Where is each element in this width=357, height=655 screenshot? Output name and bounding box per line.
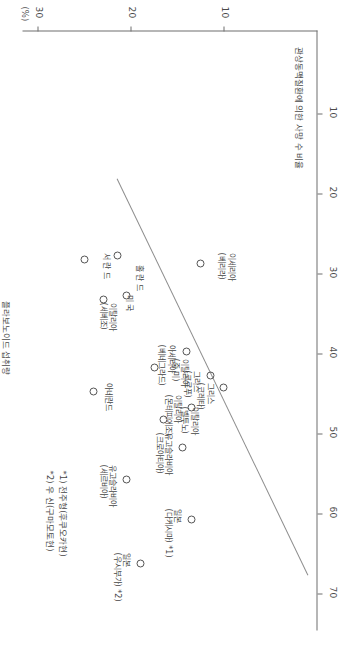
data-point-label: 이탈리아 (벨투노) — [179, 406, 198, 434]
data-point — [113, 251, 121, 259]
data-point — [159, 415, 167, 423]
unit-label: (%) — [19, 6, 29, 21]
y-tick-20 — [130, 26, 131, 31]
data-point — [89, 387, 97, 395]
x-tick-50 — [317, 433, 322, 434]
x-axis-title: 플라보노이드 섭취량 — [0, 300, 12, 375]
data-point-label: 유고슬라비아 (크로아티아) — [153, 432, 172, 474]
data-point-label: 홀 란 드 — [134, 264, 144, 290]
data-point — [220, 383, 228, 391]
x-ticklabel-60: 60 — [327, 506, 337, 518]
data-point-label: 아네란드 — [102, 382, 112, 410]
y-axis-line — [22, 30, 317, 31]
chart-figure: 10 20 30 40 50 60 70 10 20 30 (%) 플라보노이드… — [0, 0, 357, 655]
data-point-label: 이탈리아 (세베조) — [97, 302, 116, 330]
data-point — [150, 363, 158, 371]
data-point-label: 그리스 (크레타) — [195, 382, 214, 409]
data-point — [136, 559, 144, 567]
data-point-label: 일본 (다케시마) *1) — [162, 508, 181, 557]
x-tick-40 — [317, 353, 322, 354]
y-ticklabel-30: 30 — [33, 6, 43, 18]
y-axis-title: 관상동맥질환에 의한 사망 수 비율 — [293, 46, 305, 169]
data-point — [122, 475, 130, 483]
x-axis-line — [316, 30, 317, 630]
data-point — [196, 259, 204, 267]
x-tick-20 — [317, 193, 322, 194]
y-tick-30 — [37, 26, 38, 31]
x-ticklabel-10: 10 — [327, 106, 337, 118]
x-ticklabel-30: 30 — [327, 266, 337, 278]
x-ticklabel-70: 70 — [327, 586, 337, 598]
data-point — [182, 347, 190, 355]
plot-area: 10 20 30 40 50 60 70 10 20 30 (%) 플라보노이드… — [0, 0, 357, 655]
data-point — [80, 255, 88, 263]
data-point — [178, 443, 186, 451]
data-point-label: 이세리아 (베리라) — [216, 252, 235, 280]
data-point — [206, 371, 214, 379]
x-tick-30 — [317, 273, 322, 274]
x-ticklabel-50: 50 — [327, 426, 337, 438]
data-point — [122, 291, 130, 299]
x-ticklabel-40: 40 — [327, 346, 337, 358]
x-tick-10 — [317, 113, 322, 114]
x-ticklabel-20: 20 — [327, 186, 337, 198]
footnote-1: *1) 전주형(후쿠오카현) — [56, 470, 67, 556]
data-point — [99, 295, 107, 303]
x-tick-70 — [317, 593, 322, 594]
y-ticklabel-20: 20 — [126, 6, 136, 18]
y-tick-10 — [223, 26, 224, 31]
data-point-label: 유고슬라비아 (세르비아) — [97, 464, 116, 506]
data-point-label: 서 란 드 — [101, 252, 111, 278]
footnote-2: *2) 우 신(구마모토현) — [43, 470, 54, 551]
data-point-label: 일본 (우시부가) *2) — [111, 552, 130, 601]
data-point — [187, 515, 195, 523]
y-ticklabel-10: 10 — [219, 6, 229, 18]
x-tick-60 — [317, 513, 322, 514]
